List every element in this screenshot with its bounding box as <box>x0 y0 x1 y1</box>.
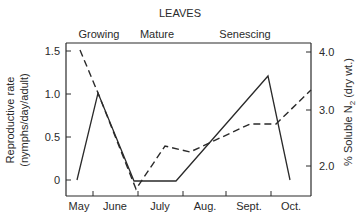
phase-label-mature: Mature <box>140 28 174 40</box>
left-tick-label: 1.0 <box>45 88 60 100</box>
left-tick-label: 0 <box>54 174 60 186</box>
right-tick-label: 3.0 <box>319 104 334 116</box>
x-axis-ticks <box>93 191 271 196</box>
chart: LEAVES Growing Mature Senescing 1.5 1.0 … <box>0 0 360 217</box>
plot-frame <box>66 43 311 196</box>
chart-title: LEAVES <box>159 7 201 19</box>
right-tick-label: 4.0 <box>319 46 334 58</box>
right-axis-label: % Soluble N2 (dry wt.) <box>342 58 357 166</box>
svg-text:(nymphs/day/adult): (nymphs/day/adult) <box>18 73 30 167</box>
series-soluble-n2 <box>80 50 311 189</box>
phase-label-growing: Growing <box>79 28 120 40</box>
month-label: June <box>103 200 127 212</box>
month-label: Aug. <box>194 200 217 212</box>
svg-text:% Soluble N2 (dry wt.): % Soluble N2 (dry wt.) <box>342 58 357 166</box>
right-axis-ticks <box>306 52 311 166</box>
left-axis-label: Reproductive rate (nymphs/day/adult) <box>4 73 30 167</box>
left-axis-ticks <box>66 51 71 180</box>
left-tick-label: 0.5 <box>45 131 60 143</box>
left-tick-label: 1.5 <box>45 45 60 57</box>
month-label: Sept. <box>236 200 262 212</box>
series-reproductive-rate <box>77 76 290 181</box>
month-label: Oct. <box>281 200 301 212</box>
phase-label-senescing: Senescing <box>219 28 270 40</box>
right-tick-label: 2.0 <box>319 160 334 172</box>
month-label: May <box>69 200 90 212</box>
month-label: July <box>150 200 170 212</box>
svg-text:Reproductive rate: Reproductive rate <box>4 77 16 164</box>
